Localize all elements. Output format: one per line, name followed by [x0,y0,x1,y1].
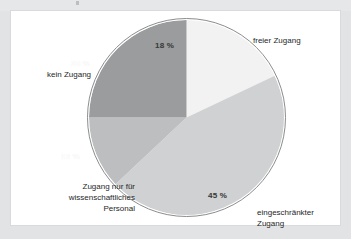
pie-category-label-wissenschaftliches-personal: Zugang nur für wissenschaftliches Person… [25,181,135,214]
label-line-1: Zugang nur für [83,182,135,191]
pie-value-label-kein-zugang: 25 % [71,59,90,68]
pie-chart-screenshot: 18 % 45 % 12 % 25 % freier Zugang einges… [0,0,351,239]
pie-value-label-eingeschraenkter-zugang: 45 % [208,191,227,200]
pie-category-label-freier-zugang: freier Zugang [253,35,301,46]
label-line-2: wissenschaftliches [69,193,135,202]
label-line-2: Zugang [257,219,284,228]
chart-panel: 18 % 45 % 12 % 25 % freier Zugang einges… [11,11,340,225]
label-line-1: eingeschränkter [257,208,314,217]
pie-value-label-freier-zugang: 18 % [155,41,174,50]
pie-category-label-eingeschraenkter-zugang: eingeschränkter Zugang [257,207,339,229]
label-line-3: Personal [103,204,135,213]
pie-value-label-wissenschaftliches-personal: 12 % [61,152,80,161]
pie-slice-kein-zugang[interactable] [89,20,187,118]
scan-speck [76,1,79,5]
pie-category-label-kein-zugang: kein Zugang [47,69,91,80]
scan-noise-band [0,0,351,11]
